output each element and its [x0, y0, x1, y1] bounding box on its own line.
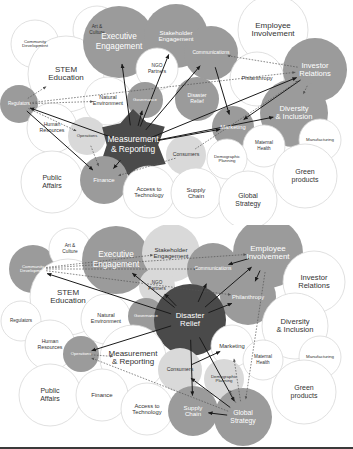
node-consumers[interactable] [158, 348, 202, 392]
node-global_strategy[interactable] [214, 388, 272, 446]
node-access_to_technology[interactable] [121, 383, 173, 435]
top-network-panel[interactable]: CommunityDevelopmentArt &CultureSTEMEduc… [0, 0, 353, 225]
bottom-network-panel[interactable]: CommunityDevelopmentArt &CultureSTEMEduc… [0, 225, 353, 449]
node-supply_chain[interactable] [171, 168, 221, 218]
node-public_affairs[interactable] [21, 151, 83, 213]
node-layer [1, 225, 345, 446]
node-green_products[interactable] [272, 360, 336, 424]
node-green_products[interactable] [273, 144, 337, 208]
disaster-relief-network[interactable]: CommunityDevelopmentArt &CultureSTEMEduc… [0, 225, 353, 449]
node-communications[interactable] [184, 26, 238, 80]
node-global_strategy[interactable] [219, 171, 277, 225]
node-operations[interactable] [68, 117, 106, 155]
node-supply_chain[interactable] [168, 386, 218, 436]
node-maternal_health[interactable] [243, 340, 283, 380]
node-public_affairs[interactable] [19, 364, 81, 426]
node-access_to_technology[interactable] [123, 166, 175, 218]
node-layer [0, 0, 347, 225]
figure-root: CommunityDevelopmentArt &CultureSTEMEduc… [0, 0, 353, 449]
node-operations[interactable] [63, 336, 99, 372]
measurement-and-reporting-network[interactable]: CommunityDevelopmentArt &CultureSTEMEduc… [0, 0, 353, 225]
node-finance[interactable] [80, 156, 128, 204]
node-finance[interactable] [76, 369, 128, 421]
